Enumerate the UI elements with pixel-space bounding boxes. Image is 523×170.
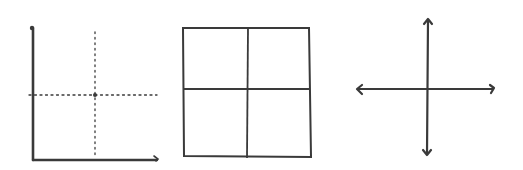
four-quadrant-grid bbox=[183, 28, 311, 158]
first-quadrant-axes bbox=[29, 26, 158, 161]
vertical-divider bbox=[247, 28, 248, 158]
cartesian-cross bbox=[357, 19, 494, 155]
vertical-double-arrow bbox=[427, 20, 428, 154]
y-axis-arrow-tip bbox=[30, 26, 34, 30]
diagram-canvas bbox=[0, 0, 523, 170]
crosshair-center-dot bbox=[93, 93, 97, 97]
